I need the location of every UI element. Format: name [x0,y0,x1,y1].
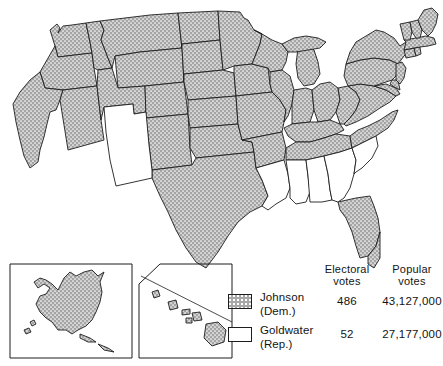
legend-swatch-johnson [228,294,252,309]
legend-party-goldwater: (Rep.) [260,338,322,352]
state-colorado [145,82,188,118]
legend-electoral-johnson: 486 [316,295,378,307]
legend-header-popular-line1: Popular [380,263,443,275]
inset-alaska-aleutian-1 [30,320,36,326]
legend-header-popular-line2: votes [380,275,443,287]
legend-party-johnson: (Dem.) [260,305,322,319]
state-kansas [188,96,238,128]
legend-header-electoral-line1: Electoral [316,263,378,275]
hawaii-inset-diagonal [141,276,232,322]
state-iowa [234,64,272,96]
legend-label-goldwater: Goldwater (Rep.) [260,324,322,351]
inset-alaska-aleutian-4 [98,344,114,352]
state-texas [152,152,268,268]
state-newmexico [146,114,192,170]
inset-alaska-landmass [34,270,104,334]
legend-row-johnson: Johnson (Dem.) 486 43,127,000 [222,293,443,325]
election-map-figure: Electoral votes Popular votes Johnson (D… [0,0,443,366]
legend-label-johnson: Johnson (Dem.) [260,291,322,318]
inset-alaska-aleutian-2 [24,328,31,334]
legend-row-goldwater: Goldwater (Rep.) 52 27,177,000 [222,326,443,358]
legend-popular-johnson: 43,127,000 [380,295,443,307]
legend-header-popular: Popular votes [380,263,443,287]
state-michigan-upper [282,36,326,52]
state-wyoming [115,48,184,88]
legend-column-headers: Electoral votes Popular votes [318,258,443,290]
legend-electoral-goldwater: 52 [316,328,378,340]
inset-hawaii-oahu [168,300,178,310]
legend-popular-goldwater: 27,177,000 [380,328,443,340]
state-nebraska [184,70,236,100]
state-arizona [104,104,152,186]
legend-candidate-johnson: Johnson [260,291,322,305]
legend-candidate-goldwater: Goldwater [260,324,322,338]
legend-header-electoral: Electoral votes [316,263,378,287]
inset-hawaii-molokai [182,309,190,315]
state-newyork [346,30,410,64]
legend-swatch-goldwater [228,327,252,342]
state-indiana [292,88,314,124]
map-legend: Electoral votes Popular votes Johnson (D… [222,258,443,362]
legend-header-electoral-line2: votes [316,275,378,287]
state-ohio [312,82,340,122]
inset-alaska-aleutian-3 [80,334,96,342]
inset-hawaii-kauai [152,290,160,298]
state-nevada [60,86,104,150]
state-newjersey [396,62,406,84]
inset-hawaii-maui [192,312,202,321]
inset-hawaii-lanai [186,318,192,323]
